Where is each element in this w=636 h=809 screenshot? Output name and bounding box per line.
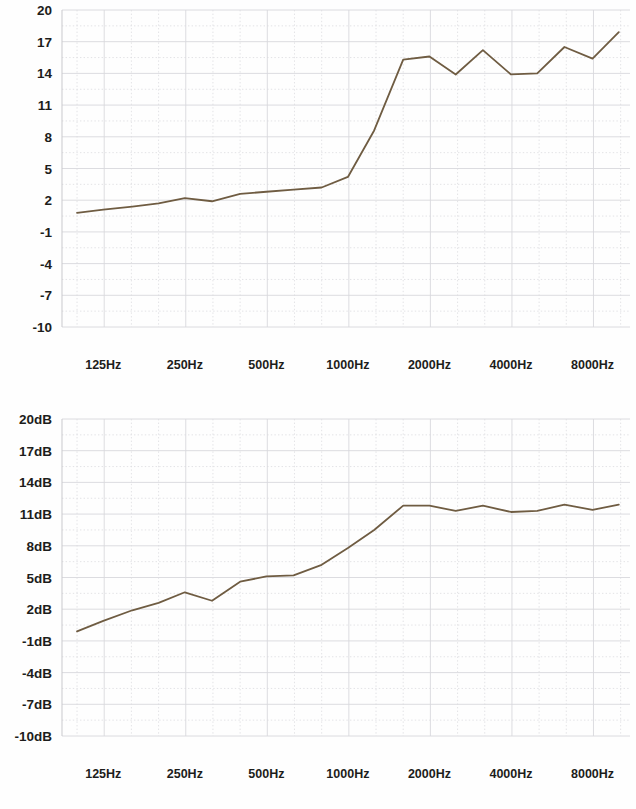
y-axis-tick-label: -4 (40, 257, 52, 272)
x-axis-tick-label: 4000Hz (489, 767, 532, 781)
y-axis-tick-label: -4dB (22, 666, 52, 681)
x-axis-tick-label: 4000Hz (489, 358, 532, 372)
chart-bottom-svg: 20dB17dB14dB11dB8dB5dB2dB-1dB-4dB-7dB-10… (0, 409, 636, 809)
y-axis-tick-label: 20dB (19, 412, 52, 427)
y-axis-tick-label: -10 (32, 320, 52, 335)
frequency-response-chart-top: 20171411852-1-4-7-10 125Hz250Hz500Hz1000… (0, 0, 636, 400)
y-axis-tick-label: 8 (44, 130, 52, 145)
y-axis-tick-label: 17 (37, 35, 52, 50)
y-axis-tick-label: 2 (44, 193, 52, 208)
x-axis-tick-label: 250Hz (167, 767, 203, 781)
x-axis-tick-label: 125Hz (85, 358, 121, 372)
chart-top-gridlines (62, 10, 630, 327)
y-axis-tick-label: -1 (40, 225, 52, 240)
chart-top-svg: 20171411852-1-4-7-10 125Hz250Hz500Hz1000… (0, 0, 636, 400)
x-axis-tick-label: 8000Hz (571, 767, 614, 781)
chart-top-yticks: 20171411852-1-4-7-10 (32, 3, 52, 335)
x-axis-tick-label: 250Hz (167, 358, 203, 372)
y-axis-tick-label: 11dB (20, 507, 53, 522)
y-axis-tick-label: 5dB (26, 571, 52, 586)
y-axis-tick-label: 20 (37, 3, 52, 18)
chart-top-xticks: 125Hz250Hz500Hz1000Hz2000Hz4000Hz8000Hz (85, 358, 614, 372)
y-axis-tick-label: 11 (38, 98, 53, 113)
x-axis-tick-label: 2000Hz (408, 767, 451, 781)
y-axis-tick-label: -10dB (14, 729, 52, 744)
y-axis-tick-label: 2dB (26, 602, 52, 617)
chart-bottom-xticks: 125Hz250Hz500Hz1000Hz2000Hz4000Hz8000Hz (85, 767, 614, 781)
y-axis-tick-label: 8dB (26, 539, 52, 554)
y-axis-tick-label: -7 (40, 288, 52, 303)
x-axis-tick-label: 500Hz (248, 767, 284, 781)
x-axis-tick-label: 8000Hz (571, 358, 614, 372)
x-axis-tick-label: 1000Hz (326, 358, 369, 372)
chart-bottom-yticks: 20dB17dB14dB11dB8dB5dB2dB-1dB-4dB-7dB-10… (14, 412, 52, 744)
y-axis-tick-label: -7dB (22, 697, 52, 712)
x-axis-tick-label: 1000Hz (326, 767, 369, 781)
y-axis-tick-label: -1dB (22, 634, 52, 649)
chart-page: 20171411852-1-4-7-10 125Hz250Hz500Hz1000… (0, 0, 636, 809)
frequency-response-chart-bottom: 20dB17dB14dB11dB8dB5dB2dB-1dB-4dB-7dB-10… (0, 409, 636, 809)
x-axis-tick-label: 500Hz (248, 358, 284, 372)
y-axis-tick-label: 5 (44, 162, 52, 177)
chart-bottom-gridlines (62, 419, 630, 736)
y-axis-tick-label: 17dB (19, 444, 52, 459)
x-axis-tick-label: 125Hz (85, 767, 121, 781)
y-axis-tick-label: 14 (37, 66, 53, 81)
x-axis-tick-label: 2000Hz (408, 358, 451, 372)
y-axis-tick-label: 14dB (19, 475, 52, 490)
